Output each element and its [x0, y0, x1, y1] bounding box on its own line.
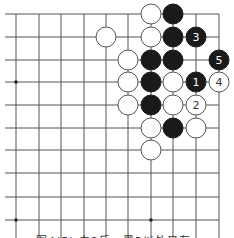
black-stone	[163, 4, 183, 24]
white-stone	[118, 72, 138, 92]
white-stone	[118, 95, 138, 115]
black-stone: 1	[186, 72, 206, 92]
go-board: 35142	[0, 0, 234, 238]
move-number-label: 1	[193, 76, 200, 89]
white-stone	[141, 4, 161, 24]
star-point	[149, 218, 153, 222]
move-number-label: 3	[193, 31, 200, 44]
white-stone	[163, 95, 183, 115]
move-number-label: 5	[216, 54, 223, 67]
black-stone: 5	[209, 50, 229, 70]
move-number-label: 4	[216, 76, 223, 89]
white-stone	[163, 72, 183, 92]
white-stone	[118, 50, 138, 70]
white-stone	[141, 140, 161, 160]
black-stone: 3	[186, 27, 206, 47]
white-stone	[96, 27, 116, 47]
star-point	[14, 218, 18, 222]
white-stone: 4	[209, 72, 229, 92]
black-stone	[141, 50, 161, 70]
move-number-label: 2	[193, 99, 200, 112]
black-stone	[141, 95, 161, 115]
white-stone: 2	[186, 95, 206, 115]
star-point	[14, 80, 18, 84]
white-stone	[186, 118, 206, 138]
white-stone	[141, 118, 161, 138]
diagram-caption: 图4(5) 白2后，黑3以外只有……	[36, 232, 216, 238]
white-stone	[141, 27, 161, 47]
black-stone	[163, 118, 183, 138]
black-stone	[141, 72, 161, 92]
black-stone	[163, 27, 183, 47]
black-stone	[163, 50, 183, 70]
